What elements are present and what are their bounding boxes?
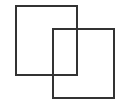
rectangle-front xyxy=(52,28,115,99)
